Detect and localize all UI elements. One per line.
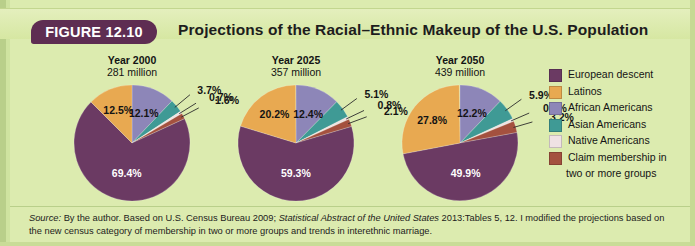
pie-chart-year-2050: Year 2050439 million49.9%27.8%12.2%5.9%0… [380,54,540,206]
leader-line [513,122,532,128]
leader-line [179,103,196,113]
leader-line [348,117,366,124]
legend-item-label: European descent [568,68,653,81]
legend-item: African Americans [549,101,667,115]
pie-slice-value-label: 27.8% [417,114,447,126]
leader-line [346,110,364,119]
legend-swatch-icon [549,86,562,99]
pie-slice-value-label: 69.4% [112,167,142,179]
leader-line [505,99,521,110]
legend-item-label: African Americans [568,101,653,114]
legend: European descentLatinosAfrican Americans… [549,68,667,180]
legend-swatch-icon [549,69,562,82]
pie-slice-value-label: 12.4% [293,108,323,120]
leader-line [181,108,198,117]
source-note: Source: By the author. Based on U.S. Cen… [29,212,679,237]
pie-area: 49.9%27.8%12.2%5.9%0.8%3.2% [380,80,540,206]
chart-population-label: 281 million [52,66,212,78]
legend-item: Latinos [549,85,667,99]
leader-line [511,113,529,121]
legend-swatch-icon [549,102,562,115]
legend-item-label: Latinos [568,85,602,98]
chart-caption: Year 2000281 million [52,54,212,78]
legend-swatch-icon [549,152,562,165]
page-right-edge [690,0,695,246]
pie-slice-value-label: 59.3% [281,167,311,179]
pie-slice-value-label: 20.2% [260,108,290,120]
chart-caption: Year 2050439 million [380,54,540,78]
legend-swatch-icon [549,135,562,148]
legend-item-label: Native Americans [568,134,650,147]
pie-svg [216,80,376,206]
legend-item: Claim membership in [549,151,667,165]
legend-swatch-icon [549,119,562,132]
page-bottom-edge [0,242,695,246]
legend-item: European descent [549,68,667,82]
legend-item-label: Claim membership in [568,151,667,164]
pie-area: 59.3%20.2%12.4%5.1%0.8%2.1% [216,80,376,206]
pie-area: 69.4%12.5%12.1%3.7%0.7%1.6% [52,80,212,206]
pie-chart-year-2000: Year 2000281 million69.4%12.5%12.1%3.7%0… [52,54,212,206]
pie-svg [380,80,540,206]
leader-line [341,98,357,110]
chart-population-label: 357 million [216,66,376,78]
pie-svg [52,80,212,206]
pie-slice-value-label: 49.9% [451,167,481,179]
chart-population-label: 439 million [380,66,540,78]
divider [10,206,690,207]
chart-year-label: Year 2050 [380,54,540,66]
source-prefix: Source: [29,213,61,223]
legend-item-label: Asian Americans [568,118,646,131]
page-title: Projections of the Racial–Ethnic Makeup … [178,21,648,39]
source-text-1: By the author. Based on U.S. Census Bure… [61,213,279,223]
figure-page: FIGURE 12.10 Projections of the Racial–E… [0,0,695,246]
legend-item: Asian Americans [549,118,667,132]
pie-slice-value-label: 12.2% [457,107,487,119]
pie-chart-year-2025: Year 2025357 million59.3%20.2%12.4%5.1%0… [216,54,376,206]
figure-number-badge: FIGURE 12.10 [31,20,157,44]
figure-header: FIGURE 12.10 Projections of the Racial–E… [0,8,695,39]
leader-line [175,95,190,108]
chart-caption: Year 2025357 million [216,54,376,78]
source-italic-title: Statistical Abstract of the United State… [279,213,439,223]
chart-year-label: Year 2000 [52,54,212,66]
chart-year-label: Year 2025 [216,54,376,66]
legend-item-label-continuation: two or more groups [566,167,667,180]
legend-item: Native Americans [549,134,667,148]
pie-slice-value-label: 12.1% [129,107,159,119]
